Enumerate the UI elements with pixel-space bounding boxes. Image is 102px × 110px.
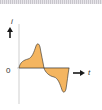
- positive-half-wave: [19, 44, 44, 68]
- negative-half-wave: [44, 68, 69, 92]
- arrow-right-icon: [73, 70, 85, 76]
- x-axis-label: t: [88, 69, 90, 77]
- arrow-up-icon: [7, 27, 13, 38]
- origin-label: 0: [6, 67, 10, 75]
- y-axis-label: i: [11, 18, 13, 26]
- current-waveform-diagram: [0, 0, 102, 110]
